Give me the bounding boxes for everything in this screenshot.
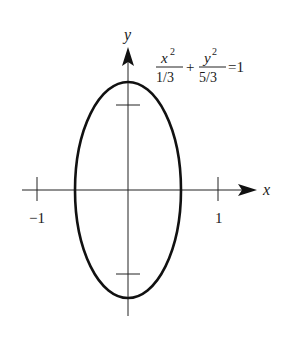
x-axis-label: x	[262, 181, 270, 198]
eq-term1-numerator: x	[160, 50, 168, 66]
eq-term2-exponent: 2	[212, 46, 217, 57]
y-axis-label: y	[122, 26, 132, 44]
eq-term1-denominator: 1/3	[156, 70, 174, 85]
x-tick-label-1: 1	[215, 210, 223, 226]
eq-term2-numerator: y	[202, 50, 211, 66]
ellipse-diagram: y x −1 1 x 2 1/3 + y 2 5/3 =1	[0, 0, 292, 339]
x-tick-label-neg1: −1	[29, 210, 45, 226]
eq-equals-one: =1	[228, 59, 244, 75]
eq-term2-denominator: 5/3	[199, 70, 217, 85]
eq-plus: +	[186, 59, 194, 75]
ellipse-equation: x 2 1/3 + y 2 5/3 =1	[156, 46, 244, 85]
eq-term1-exponent: 2	[170, 46, 175, 57]
